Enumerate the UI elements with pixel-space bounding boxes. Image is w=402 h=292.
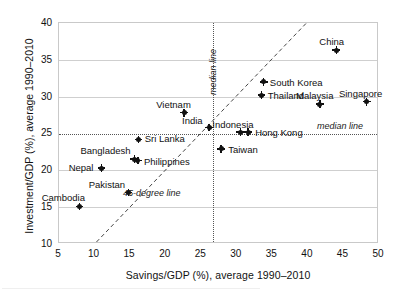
forty-five-degree-line — [59, 23, 377, 242]
y-axis-title: Investment/GDP (%), average 1990–2010 — [23, 21, 35, 251]
data-point-label: South Korea — [270, 78, 323, 88]
x-tick-50: 50 — [366, 248, 390, 259]
data-point-label: Singapore — [339, 89, 382, 99]
data-point-label: Sri Lanka — [145, 134, 185, 144]
x-tick-25: 25 — [188, 248, 212, 259]
x-tick-15: 15 — [117, 248, 141, 259]
data-point-marker[interactable] — [246, 130, 251, 135]
data-point-label: Nepal — [69, 163, 94, 173]
data-point-label: Hong Kong — [255, 128, 303, 138]
data-point-marker[interactable] — [334, 48, 339, 53]
x-tick-45: 45 — [330, 248, 354, 259]
x-tick-5: 5 — [46, 248, 70, 259]
data-point-label: Malaysia — [296, 91, 334, 101]
data-point-marker[interactable] — [238, 130, 243, 135]
data-point-label: India — [182, 116, 203, 126]
data-point-label: China — [319, 37, 344, 47]
forty-five-degree-line-label: 45-degree line — [123, 189, 181, 198]
scatter-chart-figure: 40 35 30 25 20 15 10 5 10 15 20 25 30 35… — [0, 0, 402, 292]
x-axis-title: Savings/GDP (%), average 1990–2010 — [58, 269, 378, 281]
median-line-vertical-label: median line — [209, 49, 218, 95]
data-point-marker[interactable] — [207, 125, 212, 130]
data-point-label: Taiwan — [228, 145, 258, 155]
x-tick-10: 10 — [82, 248, 106, 259]
data-point-label: Philippines — [144, 157, 190, 167]
data-point-marker[interactable] — [99, 166, 104, 171]
data-point-label: Vietnam — [156, 100, 191, 110]
data-point-label: Bangladesh — [80, 146, 130, 156]
x-tick-30: 30 — [224, 248, 248, 259]
x-tick-40: 40 — [295, 248, 319, 259]
data-point-label: Pakistan — [89, 180, 125, 190]
plot-area: median line median line 45-degree line C… — [58, 22, 378, 243]
data-point-marker[interactable] — [259, 93, 264, 98]
data-point-label: Cambodia — [42, 193, 85, 203]
median-line-horizontal-label: median line — [317, 122, 363, 131]
footer-divider — [2, 288, 260, 289]
x-tick-35: 35 — [259, 248, 283, 259]
x-tick-20: 20 — [153, 248, 177, 259]
